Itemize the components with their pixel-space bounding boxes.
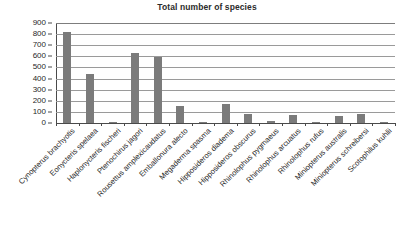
x-axis-tick <box>56 123 57 126</box>
x-axis-tick <box>214 123 215 126</box>
plot-area <box>56 23 395 123</box>
bar-chart: Total number of species 0100200300400500… <box>0 0 414 249</box>
x-axis-tick <box>124 123 125 126</box>
x-axis-tick <box>101 123 102 126</box>
x-axis-labels: Cynopterus brachyotisEonycteris spelaeaH… <box>0 127 414 249</box>
x-axis-tick <box>146 123 147 126</box>
y-axis-tick <box>48 45 52 46</box>
bar <box>154 57 162 123</box>
y-axis-tick <box>48 56 52 57</box>
bar <box>357 114 365 123</box>
y-axis-tick <box>48 111 52 112</box>
y-axis-tick-label: 700 <box>33 41 46 49</box>
bar-series <box>56 23 395 123</box>
x-axis-tick <box>79 123 80 126</box>
y-axis-tick-label: 0 <box>42 119 46 127</box>
x-axis-tick <box>192 123 193 126</box>
x-axis-category-label: Scotophilus kuhlii <box>346 127 393 174</box>
y-axis-tick-label: 900 <box>33 19 46 27</box>
x-axis-tick <box>259 123 260 126</box>
x-axis-tick <box>169 123 170 126</box>
x-axis-tick <box>327 123 328 126</box>
y-axis-tick-label: 200 <box>33 97 46 105</box>
bar <box>289 115 297 123</box>
bar <box>131 53 139 123</box>
x-axis-tick <box>305 123 306 126</box>
y-axis-tick <box>48 123 52 124</box>
y-axis-tick <box>48 67 52 68</box>
y-axis-tick <box>48 100 52 101</box>
y-axis-tick-label: 500 <box>33 63 46 71</box>
y-axis-tick <box>48 23 52 24</box>
y-axis-labels: 0100200300400500600700800900 <box>0 23 52 123</box>
y-axis-tick-label: 800 <box>33 30 46 38</box>
y-axis-tick <box>48 89 52 90</box>
bar <box>244 114 252 123</box>
bar <box>63 32 71 123</box>
y-axis-tick-label: 400 <box>33 75 46 83</box>
chart-title: Total number of species <box>0 2 414 12</box>
x-axis-tick <box>350 123 351 126</box>
y-axis-tick-label: 600 <box>33 52 46 60</box>
y-axis-tick-label: 100 <box>33 108 46 116</box>
y-axis-tick <box>48 78 52 79</box>
bar <box>176 106 184 123</box>
y-axis-tick <box>48 34 52 35</box>
x-axis-tick <box>237 123 238 126</box>
bar <box>222 104 230 123</box>
x-axis-tick <box>282 123 283 126</box>
x-axis-tick <box>372 123 373 126</box>
bar <box>335 116 343 123</box>
bar <box>86 74 94 123</box>
x-axis-tick <box>395 123 396 126</box>
y-axis-tick-label: 300 <box>33 86 46 94</box>
